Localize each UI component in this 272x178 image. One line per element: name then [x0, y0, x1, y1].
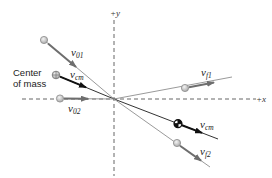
vf1-subscript: f1 [206, 71, 212, 80]
vf2-subscript: f2 [205, 150, 211, 159]
center-of-mass-label: Center of mass [13, 67, 46, 89]
object1-outgoing-path [114, 77, 232, 99]
vcm-final-arrow [182, 125, 202, 133]
vf1-arrow [189, 83, 214, 88]
x-axis-label: +x [256, 95, 266, 104]
vcm-final-label: vcm [200, 119, 214, 132]
vf2-label: vf2 [200, 146, 211, 159]
vf1-label: vf1 [201, 67, 212, 80]
cm-initial-marker [52, 71, 60, 79]
center-of-mass-label-line1: Center [13, 67, 46, 78]
diagram-canvas [0, 0, 272, 178]
cm-final-marker [174, 120, 182, 128]
center-of-mass-label-line2: of mass [13, 78, 46, 89]
object2-final-ball [173, 139, 180, 146]
object1-final-ball [181, 84, 188, 91]
vcm-final-subscript: cm [205, 123, 214, 132]
v02-label: v02 [68, 103, 80, 116]
vf2-arrow [180, 146, 201, 161]
vcm-initial-subscript: cm [75, 73, 84, 82]
object2-initial-ball [56, 95, 63, 102]
v01-subscript: 01 [76, 51, 84, 60]
object1-initial-ball [40, 36, 47, 43]
collision-diagram: +y +x Center of mass v01 vcm v02 vf1 vcm… [0, 0, 272, 178]
vcm-initial-label: vcm [70, 69, 84, 82]
v02-subscript: 02 [73, 107, 81, 116]
y-axis-label: +y [110, 9, 120, 18]
v01-label: v01 [71, 47, 83, 60]
